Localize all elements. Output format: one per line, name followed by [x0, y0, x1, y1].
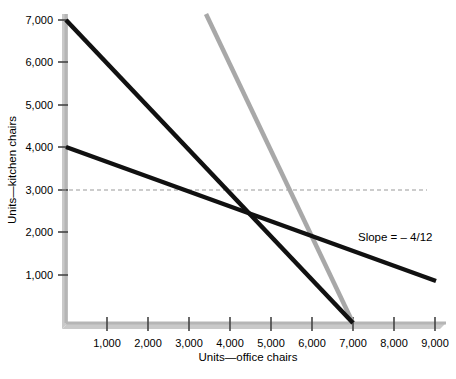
x-tick-label-2000: 2,000 — [134, 337, 162, 349]
line-chart-plot: 1,000 2,000 3,000 4,000 5,000 6,000 7,00… — [0, 0, 456, 379]
steep-black-line — [66, 20, 353, 323]
y-tick-label-1000: 1,000 — [25, 269, 53, 281]
x-tick-label-8000: 8,000 — [380, 337, 408, 349]
x-tick-label-5000: 5,000 — [257, 337, 285, 349]
shallow-black-line — [66, 147, 436, 281]
chart-container: 1,000 2,000 3,000 4,000 5,000 6,000 7,00… — [0, 0, 456, 379]
x-axis-tick-labels: 1,000 2,000 3,000 4,000 5,000 6,000 7,00… — [93, 337, 449, 349]
x-tick-label-7000: 7,000 — [339, 337, 367, 349]
y-tick-label-5000: 5,000 — [25, 99, 53, 111]
x-tick-label-9000: 9,000 — [421, 337, 449, 349]
y-axis-title: Units—kitchen chairs — [6, 116, 18, 224]
y-tick-label-3000: 3,000 — [25, 184, 53, 196]
y-tick-label-7000: 7,000 — [25, 14, 53, 26]
x-tick-label-6000: 6,000 — [298, 337, 326, 349]
x-tick-label-3000: 3,000 — [175, 337, 203, 349]
y-tick-label-4000: 4,000 — [25, 141, 53, 153]
x-axis-title: Units—office chairs — [199, 351, 298, 363]
y-tick-label-6000: 6,000 — [25, 56, 53, 68]
gray-budget-line — [206, 14, 353, 323]
caption-partial-text — [0, 368, 456, 379]
x-tick-label-1000: 1,000 — [93, 337, 121, 349]
y-tick-label-2000: 2,000 — [25, 226, 53, 238]
y-axis-tick-labels: 1,000 2,000 3,000 4,000 5,000 6,000 7,00… — [25, 14, 53, 281]
slope-annotation-label: Slope = – 4/12 — [358, 231, 433, 243]
axis-shadow-group — [62, 14, 446, 329]
x-tick-label-4000: 4,000 — [216, 337, 244, 349]
